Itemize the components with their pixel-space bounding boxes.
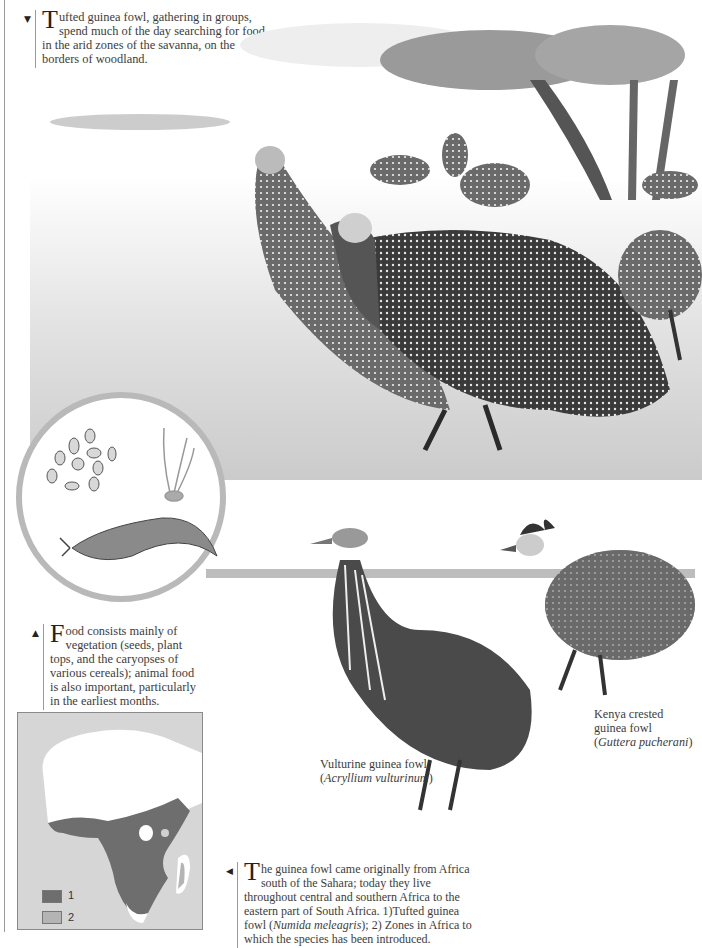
caption-food: ▲ Food consists mainly of vegetation (se… xyxy=(46,624,204,708)
vulturine-label: Vulturine guinea fowl (Acryllium vulturi… xyxy=(320,757,433,785)
common-name: Vulturine guinea fowl xyxy=(320,757,433,771)
kenya-crested-guinea-fowl-illustration xyxy=(490,510,700,700)
scientific-name: Guttera pucherani xyxy=(598,735,688,749)
common-name-line-1: Kenya crested xyxy=(594,707,693,721)
seeds-icon xyxy=(47,429,116,491)
slug-icon xyxy=(60,518,217,560)
legend-swatch-dark xyxy=(42,890,62,903)
legend-item-native-range: 1 xyxy=(42,889,74,903)
caption-text: ood consists mainly of vegetation (seeds… xyxy=(50,624,196,708)
caption-rule xyxy=(43,624,44,710)
plant-tops-icon xyxy=(164,428,194,501)
map-legend: 1 2 xyxy=(42,889,74,924)
drop-cap: T xyxy=(244,862,260,882)
up-triangle-icon: ▲ xyxy=(32,626,39,640)
scientific-name: Numida meleagris xyxy=(273,918,361,932)
kenya-label: Kenya crested guinea fowl (Guttera puche… xyxy=(594,707,693,749)
caption-distribution: ◀ The guinea fowl came originally from A… xyxy=(240,862,480,946)
scientific-name: Acryllium vulturinum xyxy=(324,771,429,785)
legend-item-introduced: 2 xyxy=(42,911,74,925)
left-triangle-icon: ◀ xyxy=(226,864,233,878)
legend-swatch-light xyxy=(42,911,62,924)
food-items-inset xyxy=(16,392,226,602)
common-name-line-2: guinea fowl xyxy=(594,721,693,735)
drop-cap: F xyxy=(50,624,64,644)
page-margin-rule xyxy=(4,0,5,932)
distribution-map: 1 2 xyxy=(17,712,203,930)
food-illustration xyxy=(22,398,220,596)
caption-rule xyxy=(237,862,238,948)
